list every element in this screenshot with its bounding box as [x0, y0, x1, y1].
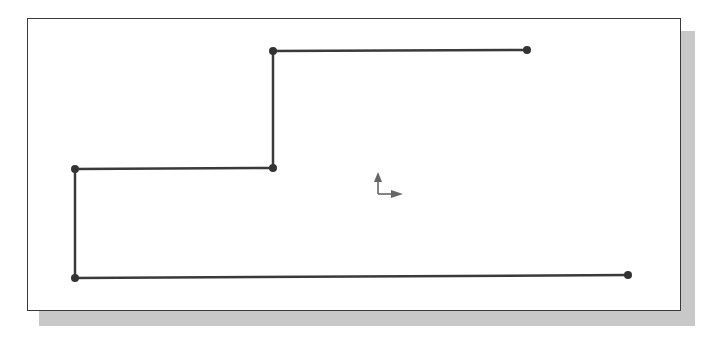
y-axis-arrow-icon [374, 172, 382, 182]
x-axis-arrow-icon [391, 190, 403, 198]
sketch-canvas[interactable] [0, 0, 715, 338]
sketch-point[interactable] [71, 274, 79, 282]
sketch-points [71, 46, 632, 282]
sketch-point[interactable] [269, 164, 277, 172]
sketch-polyline[interactable] [75, 50, 628, 278]
sketch-point[interactable] [269, 47, 277, 55]
sketch-point[interactable] [624, 271, 632, 279]
sketch-point[interactable] [71, 165, 79, 173]
coordinate-axis-icon [374, 172, 403, 198]
sketch-point[interactable] [523, 46, 531, 54]
